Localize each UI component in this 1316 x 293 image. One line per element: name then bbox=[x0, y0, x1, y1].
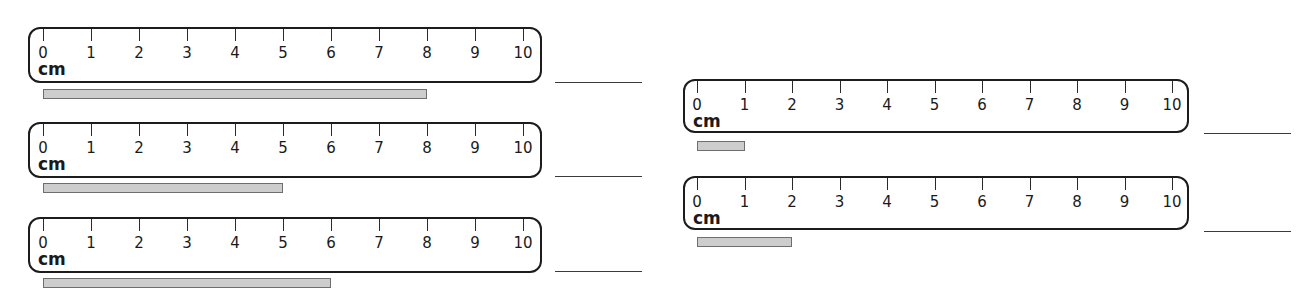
ruler-tick-label: 5 bbox=[268, 139, 298, 157]
ruler-tick bbox=[1125, 178, 1126, 190]
ruler-tick bbox=[331, 219, 332, 231]
measured-strip bbox=[697, 237, 792, 247]
ruler-tick bbox=[697, 178, 698, 190]
ruler-tick-label: 4 bbox=[872, 96, 902, 114]
ruler: 012345678910cm bbox=[28, 122, 542, 178]
ruler-tick bbox=[935, 81, 936, 93]
measured-strip bbox=[43, 89, 427, 99]
ruler-tick bbox=[235, 29, 236, 41]
ruler-tick-label: 9 bbox=[460, 44, 490, 62]
ruler-tick bbox=[1125, 81, 1126, 93]
ruler-tick bbox=[235, 124, 236, 136]
ruler-tick bbox=[427, 219, 428, 231]
answer-line[interactable] bbox=[1204, 133, 1291, 134]
ruler-tick bbox=[283, 219, 284, 231]
ruler-tick bbox=[1030, 81, 1031, 93]
ruler-tick bbox=[982, 81, 983, 93]
ruler-tick-label: 8 bbox=[1062, 96, 1092, 114]
ruler-tick-label: 1 bbox=[730, 193, 760, 211]
ruler-tick bbox=[982, 178, 983, 190]
ruler-tick bbox=[887, 81, 888, 93]
ruler-tick bbox=[475, 124, 476, 136]
ruler-tick bbox=[187, 219, 188, 231]
ruler-tick-label: 7 bbox=[1015, 96, 1045, 114]
ruler-tick-label: 3 bbox=[172, 234, 202, 252]
answer-line[interactable] bbox=[555, 271, 642, 272]
ruler-tick bbox=[840, 178, 841, 190]
ruler-tick-label: 6 bbox=[316, 44, 346, 62]
ruler-tick bbox=[91, 124, 92, 136]
ruler-tick bbox=[379, 219, 380, 231]
answer-line[interactable] bbox=[1204, 231, 1291, 232]
ruler-tick bbox=[475, 219, 476, 231]
ruler-tick bbox=[1077, 81, 1078, 93]
ruler-tick-label: 2 bbox=[777, 96, 807, 114]
ruler: 012345678910cm bbox=[683, 79, 1189, 133]
ruler-tick bbox=[523, 29, 524, 41]
ruler-tick bbox=[379, 29, 380, 41]
ruler-tick-label: 9 bbox=[460, 139, 490, 157]
ruler-tick bbox=[43, 219, 44, 231]
ruler-tick-label: 4 bbox=[220, 44, 250, 62]
ruler-tick-label: 7 bbox=[364, 139, 394, 157]
ruler-tick bbox=[235, 219, 236, 231]
ruler: 012345678910cm bbox=[28, 27, 542, 83]
ruler-tick bbox=[745, 81, 746, 93]
ruler-tick-label: 2 bbox=[124, 44, 154, 62]
ruler-tick-label: 10 bbox=[508, 44, 538, 62]
ruler-tick bbox=[475, 29, 476, 41]
ruler-tick bbox=[139, 219, 140, 231]
unit-label: cm bbox=[38, 250, 66, 268]
ruler-tick-label: 4 bbox=[220, 234, 250, 252]
ruler-tick bbox=[379, 124, 380, 136]
ruler-tick-label: 9 bbox=[460, 234, 490, 252]
ruler-tick-label: 6 bbox=[316, 234, 346, 252]
ruler-tick-label: 2 bbox=[124, 139, 154, 157]
ruler-tick-label: 1 bbox=[76, 139, 106, 157]
ruler-tick-label: 7 bbox=[364, 234, 394, 252]
ruler-tick bbox=[1077, 178, 1078, 190]
ruler-tick-label: 10 bbox=[508, 234, 538, 252]
ruler-tick-label: 3 bbox=[825, 193, 855, 211]
ruler-tick-label: 10 bbox=[1157, 193, 1187, 211]
ruler-tick-label: 3 bbox=[172, 44, 202, 62]
ruler: 012345678910cm bbox=[683, 176, 1189, 230]
ruler-tick bbox=[331, 124, 332, 136]
ruler-tick bbox=[139, 29, 140, 41]
ruler-tick bbox=[187, 29, 188, 41]
answer-line[interactable] bbox=[555, 176, 642, 177]
ruler-tick-label: 1 bbox=[76, 234, 106, 252]
ruler-tick bbox=[792, 81, 793, 93]
ruler-tick bbox=[91, 219, 92, 231]
answer-line[interactable] bbox=[555, 82, 642, 83]
ruler-tick bbox=[523, 124, 524, 136]
unit-label: cm bbox=[38, 60, 66, 78]
ruler-tick-label: 4 bbox=[872, 193, 902, 211]
measured-strip bbox=[43, 183, 283, 193]
ruler-tick bbox=[139, 124, 140, 136]
ruler-tick bbox=[1172, 81, 1173, 93]
ruler-tick-label: 9 bbox=[1110, 96, 1140, 114]
ruler-tick-label: 6 bbox=[967, 193, 997, 211]
measured-strip bbox=[697, 141, 745, 151]
ruler-tick bbox=[792, 178, 793, 190]
ruler-tick-label: 10 bbox=[1157, 96, 1187, 114]
ruler-tick-label: 5 bbox=[268, 234, 298, 252]
ruler-tick-label: 5 bbox=[268, 44, 298, 62]
ruler-tick-label: 6 bbox=[967, 96, 997, 114]
ruler-tick-label: 3 bbox=[825, 96, 855, 114]
ruler-tick bbox=[427, 29, 428, 41]
ruler-tick bbox=[91, 29, 92, 41]
ruler-tick bbox=[43, 29, 44, 41]
ruler-tick-label: 5 bbox=[920, 193, 950, 211]
ruler-tick bbox=[935, 178, 936, 190]
ruler-tick bbox=[1030, 178, 1031, 190]
ruler-tick-label: 7 bbox=[1015, 193, 1045, 211]
ruler-tick-label: 10 bbox=[508, 139, 538, 157]
ruler-tick-label: 8 bbox=[412, 139, 442, 157]
ruler-tick-label: 6 bbox=[316, 139, 346, 157]
ruler-tick bbox=[427, 124, 428, 136]
ruler-tick bbox=[840, 81, 841, 93]
ruler-tick bbox=[187, 124, 188, 136]
ruler-tick bbox=[331, 29, 332, 41]
